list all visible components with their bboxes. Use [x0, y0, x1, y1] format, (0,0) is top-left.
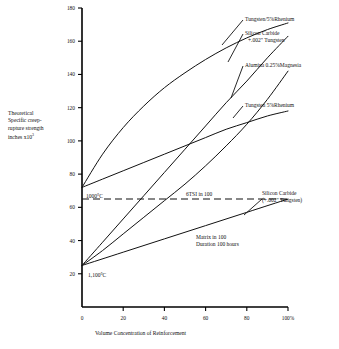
x-tick-label: 80 [244, 315, 250, 321]
y-tick-label: 20 [70, 271, 76, 277]
y-axis-title-exponent: 3 [32, 133, 34, 137]
x-tick-label: 40 [162, 315, 168, 321]
curve-alumina-0-25-magnesia [82, 71, 288, 265]
annotation-reference-line-label: 6TSI in 100 [186, 191, 212, 198]
y-tick-label: 80 [70, 171, 76, 177]
y-tick-label: 140 [67, 71, 75, 77]
chart-figure: 20406080100120140160180 020406080100% Th… [0, 0, 339, 349]
annotation-tungsten-rhenium-lower: Tungsten 5%Rhenium [245, 102, 294, 109]
annotation-tungsten-rhenium-upper: Tungsten/5%Rhenium [245, 16, 294, 23]
axes [82, 8, 288, 307]
x-tick-label: 60 [203, 315, 209, 321]
y-axis-title-line-3: rupture strength [8, 125, 44, 131]
y-axis-title-line-4: inches x10 [8, 134, 32, 140]
leader-alumina [231, 66, 243, 98]
annotation-silicon-carbide-line2: +.002" Tungsten [248, 37, 285, 44]
y-axis-title-line-1: Theoretical [8, 110, 33, 116]
x-tick-label: 20 [121, 315, 127, 321]
leader-silicon-carbide [228, 34, 243, 62]
label-temp-1100: 1,100°C [88, 272, 106, 278]
curve-silicon-carbide-002-tungsten [82, 199, 288, 265]
y-tick-label: 40 [70, 238, 76, 244]
data-curves [82, 23, 288, 266]
x-axis-title: Volume Concentration of Reinforcement [95, 330, 186, 338]
x-tick-label: 100% [282, 315, 295, 321]
y-tick-label: 160 [67, 38, 75, 44]
leader-lines [222, 20, 262, 215]
annotation-alumina-magnesia: Alumina 0.25%Magnesia [245, 62, 301, 69]
x-tick-label: 0 [81, 315, 84, 321]
y-tick-label: 60 [70, 204, 76, 210]
annotation-silicon-carbide-low-line2: (+.002" Tungsten) [262, 197, 302, 204]
label-temp-1000: 1000°C [86, 193, 103, 199]
curve-silicon-carbide-002-tungsten [82, 36, 288, 265]
y-axis-title: Theoretical Specific creep- rupture stre… [8, 110, 82, 141]
leader-silicon-carbide-low [244, 199, 262, 215]
x-axis-ticks: 020406080100% [81, 307, 295, 321]
annotation-matrix-note-line2: Duration 100 hours [196, 241, 239, 248]
leader-tungsten-rhenium-lower [233, 106, 243, 118]
y-tick-label: 180 [67, 5, 75, 11]
chart-canvas: 20406080100120140160180 020406080100% [0, 0, 339, 349]
y-axis-title-line-2: Specific creep- [8, 117, 42, 123]
